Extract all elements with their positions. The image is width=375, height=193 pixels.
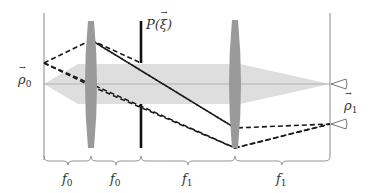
focal-label-f0-b: f0 [110,172,121,188]
aperture-label-xi: ξ [160,18,167,31]
aperture-label-close: ) [167,17,172,32]
f-sub: 0 [115,178,121,188]
output-plane-label: ρ1 [344,99,357,115]
focal-length-braces [44,156,330,165]
f-sub: 1 [281,178,287,188]
optical-diagram [0,0,375,193]
f-sub: 0 [67,178,73,188]
input-plane-sub: 0 [26,79,32,89]
aperture-label-p: P( [146,17,160,32]
aperture-label: P(ξ) [146,18,172,31]
input-plane-label: ρ0 [18,73,31,89]
f-sub: 1 [187,178,193,188]
output-plane-rho: ρ [344,99,352,112]
focal-label-f1-b: f1 [276,172,287,188]
output-plane-sub: 1 [352,105,358,115]
focal-label-f0-a: f0 [62,172,73,188]
input-plane-rho: ρ [18,73,26,86]
lens-1 [229,20,241,148]
lens-0 [85,21,97,148]
focal-label-f1-a: f1 [182,172,193,188]
